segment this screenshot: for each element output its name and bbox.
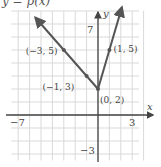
data-point: [96, 87, 100, 91]
data-point: [85, 74, 89, 78]
graph-title: y = p(x): [2, 0, 50, 8]
x-axis-label: x: [147, 101, 153, 112]
coordinate-plane: xy−737−3(−3, 5)(−1, 3)(0, 2)(1, 5): [0, 0, 161, 167]
data-point: [62, 48, 66, 52]
point-label: (1, 5): [113, 44, 137, 54]
graph-figure: y = p(x) xy−737−3(−3, 5)(−1, 3)(0, 2)(1,…: [0, 0, 161, 167]
y-tick-label-min: −3: [80, 145, 95, 156]
point-label: (−3, 5): [26, 46, 58, 56]
x-tick-label-min: −7: [10, 117, 25, 128]
point-label: (0, 2): [100, 95, 124, 105]
data-point: [107, 48, 111, 52]
point-label: (−1, 3): [43, 82, 75, 92]
y-tick-label-max: 7: [87, 24, 93, 35]
x-tick-label-max: 3: [129, 117, 135, 128]
y-axis-label: y: [102, 8, 109, 19]
